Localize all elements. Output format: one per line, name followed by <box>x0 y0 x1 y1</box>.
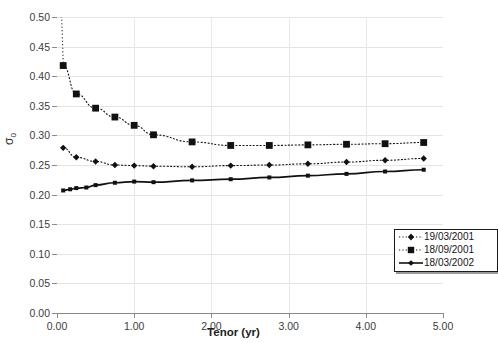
legend-item: 18/09/2001 <box>398 244 497 256</box>
x-tick <box>289 313 290 318</box>
data-point <box>266 142 273 149</box>
data-point <box>94 183 98 187</box>
data-point <box>343 159 349 165</box>
data-point <box>113 181 117 185</box>
y-tick-label: 0.30 <box>0 130 50 140</box>
y-tick-label: 0.15 <box>0 219 50 229</box>
series-line <box>63 170 424 191</box>
series-18/03/2002 <box>61 168 426 193</box>
data-point <box>60 62 67 69</box>
x-tick <box>57 313 58 318</box>
data-point <box>60 145 66 151</box>
data-point <box>132 180 136 184</box>
data-point <box>343 141 350 148</box>
data-point <box>227 142 234 149</box>
legend-marker-solid-icon <box>398 257 424 269</box>
x-tick <box>443 313 444 318</box>
series-line <box>63 148 424 167</box>
x-tick <box>366 313 367 318</box>
data-point <box>345 172 349 176</box>
data-point <box>150 163 156 169</box>
data-point <box>305 161 311 167</box>
series-18/09/2001 <box>60 62 427 149</box>
series-line-extension <box>62 17 64 66</box>
data-point <box>266 162 272 168</box>
series-19/03/2001 <box>60 145 427 170</box>
legend-label: 19/03/2001 <box>424 231 474 243</box>
data-point <box>228 162 234 168</box>
data-point <box>190 178 194 182</box>
x-tick <box>134 313 135 318</box>
data-point <box>382 140 389 147</box>
data-point <box>305 141 312 148</box>
x-axis-label: Tenor (yr) <box>0 326 467 338</box>
data-point <box>189 164 195 170</box>
data-point <box>73 154 79 160</box>
data-point <box>383 170 387 174</box>
legend-marker-square-icon <box>398 244 424 256</box>
data-point <box>112 162 118 168</box>
legend-item: 18/03/2002 <box>398 257 497 269</box>
legend-marker-diamond-icon <box>398 231 424 243</box>
data-point <box>131 162 137 168</box>
data-point <box>306 174 310 178</box>
y-tick-label: 0.05 <box>0 278 50 288</box>
series-layer <box>57 17 443 313</box>
data-point <box>92 105 99 112</box>
data-point <box>189 139 196 146</box>
y-tick-label: 0.10 <box>0 249 50 259</box>
series-line <box>63 66 424 146</box>
y-tick-label: 0.50 <box>0 12 50 22</box>
data-point <box>84 186 88 190</box>
y-tick-label: 0.45 <box>0 42 50 52</box>
y-tick-label: 0.35 <box>0 101 50 111</box>
plot-area: 19/03/2001 18/09/2001 18/03/2002 <box>57 17 443 313</box>
chart-legend: 19/03/2001 18/09/2001 18/03/2002 <box>394 229 498 272</box>
data-point <box>74 186 78 190</box>
data-point <box>92 158 98 164</box>
y-tick-label: 0.00 <box>0 308 50 318</box>
data-point <box>61 188 65 192</box>
data-point <box>73 91 80 98</box>
data-point <box>382 157 388 163</box>
data-point <box>152 180 156 184</box>
legend-label: 18/09/2001 <box>424 244 474 256</box>
x-tick <box>211 313 212 318</box>
data-point <box>150 131 157 138</box>
data-point <box>267 175 271 179</box>
data-point <box>420 139 427 146</box>
legend-item: 19/03/2001 <box>398 231 497 243</box>
data-point <box>68 187 72 191</box>
data-point <box>112 114 119 121</box>
x-axis-line <box>57 313 444 314</box>
data-point <box>131 122 138 129</box>
y-tick-label: 0.25 <box>0 160 50 170</box>
y-tick-label: 0.40 <box>0 71 50 81</box>
data-point <box>422 168 426 172</box>
legend-label: 18/03/2002 <box>424 257 474 269</box>
data-point <box>421 155 427 161</box>
data-point <box>229 177 233 181</box>
y-tick-label: 0.20 <box>0 190 50 200</box>
